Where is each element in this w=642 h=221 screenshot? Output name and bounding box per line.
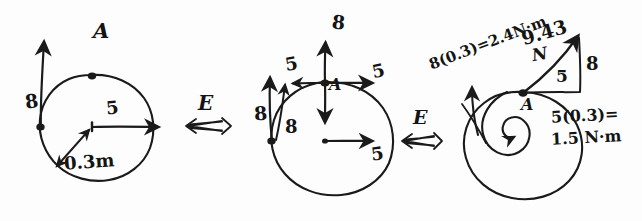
center-marker-2: [322, 138, 328, 143]
point-a-marker-1: [88, 73, 96, 80]
force-arrow-left-5-2: [293, 83, 323, 84]
equiv-arrow-1: [188, 121, 222, 131]
label-outer-8-panel2: 8: [253, 104, 268, 124]
equiv-arrow-2-heads: [434, 133, 442, 149]
label-point-a-panel3: A: [521, 97, 533, 113]
force-arrow-8-1: [41, 42, 44, 128]
label-center-5-panel2: 5: [370, 144, 385, 164]
equiv-arrow-1-heads: [222, 118, 231, 134]
label-point-a-panel2: A: [329, 77, 341, 93]
label-point-a-panel1: A: [93, 20, 109, 41]
label-triangle-height-panel3: 8: [586, 55, 599, 73]
disk-outline-2: [271, 82, 393, 195]
label-up-8-panel2: 8: [331, 12, 346, 32]
force-arrow-outer-8-2: [270, 78, 272, 141]
label-radius-panel1: 0.3m: [63, 151, 115, 172]
label-moment-5-line1-panel3: 5(0.3)=: [551, 106, 619, 126]
equivalence-letter-1: E: [198, 93, 213, 113]
label-resultant-unit-panel3: N: [531, 45, 549, 64]
label-triangle-base-panel3: 5: [556, 68, 568, 85]
equivalence-symbol-2: [402, 133, 442, 149]
label-force-5-panel1: 5: [105, 98, 119, 117]
equivalence-letter-2: E: [413, 108, 427, 127]
equivalence-symbol-1: [186, 118, 231, 134]
force-arrow-up-8-2: [325, 43, 326, 83]
label-force-8-panel1: 8: [24, 91, 40, 112]
label-moment-5-line2-panel3: 1.5 N·m: [551, 128, 622, 148]
